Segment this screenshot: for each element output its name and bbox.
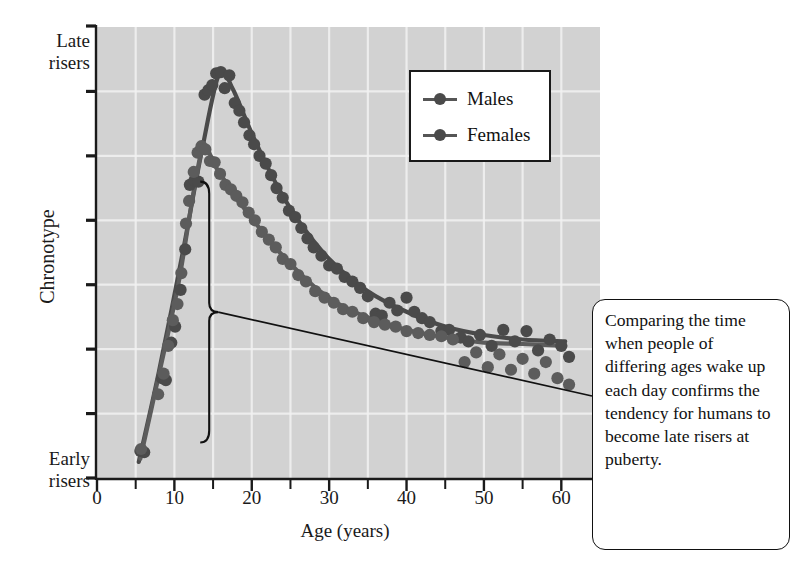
legend-item-females: Females xyxy=(423,122,530,148)
legend-marker-males-icon xyxy=(423,92,457,106)
legend-marker-females-icon xyxy=(423,128,457,142)
annotation-callout: Comparing the time when people of differ… xyxy=(592,299,790,550)
legend-item-males: Males xyxy=(423,86,513,112)
chronotype-figure: Late risers Early risers Chronotype Age … xyxy=(0,0,799,579)
legend-label-males: Males xyxy=(467,88,513,110)
annotation-callout-text: Comparing the time when people of differ… xyxy=(605,309,779,471)
legend-label-females: Females xyxy=(467,124,530,146)
annotation-leader-line xyxy=(218,312,592,396)
legend: Males Females xyxy=(409,70,551,162)
